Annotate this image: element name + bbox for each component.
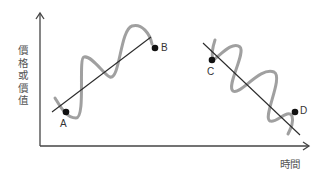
downtrend-wave <box>212 40 292 134</box>
x-axis-label: 時間 <box>280 156 300 171</box>
uptrend-wave <box>55 25 152 118</box>
point-a-label: A <box>60 118 67 129</box>
point-d-label: D <box>300 105 307 116</box>
point-d-marker <box>292 109 299 116</box>
point-c-marker <box>209 57 216 64</box>
y-axis-label: 價格或價值 <box>16 44 30 107</box>
point-b-marker <box>152 45 159 52</box>
uptrend-line <box>52 37 151 112</box>
point-a-marker <box>63 109 70 116</box>
price-time-diagram <box>0 0 326 179</box>
point-c-label: C <box>207 66 214 77</box>
point-b-label: B <box>161 42 168 53</box>
axes <box>36 13 309 150</box>
downtrend-line <box>203 43 300 135</box>
